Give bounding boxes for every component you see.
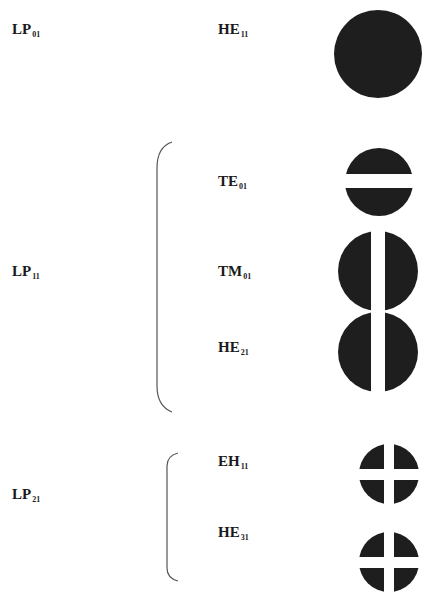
he31-pattern bbox=[357, 530, 421, 595]
lp21-bracket bbox=[167, 453, 178, 581]
he21-pattern bbox=[336, 310, 421, 394]
te01-pattern bbox=[340, 140, 420, 224]
mode-diagram bbox=[0, 0, 440, 597]
he11-pattern bbox=[334, 10, 422, 98]
lp11-bracket bbox=[157, 142, 172, 412]
tm01-pattern bbox=[336, 230, 421, 312]
eh11-pattern bbox=[357, 442, 421, 507]
